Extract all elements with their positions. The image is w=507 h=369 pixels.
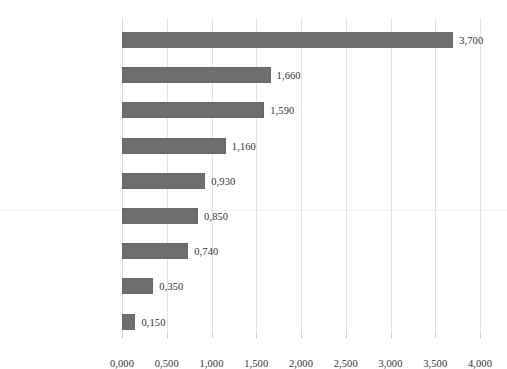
x-axis-tick-label: 3,500 (423, 358, 447, 369)
x-axis-tick (212, 334, 213, 338)
x-gridline (480, 18, 481, 334)
bar (122, 314, 135, 330)
x-axis-tick (167, 334, 168, 338)
bar-row: Cities1,660 (122, 67, 480, 83)
x-axis-tick-label: 0,000 (110, 358, 134, 369)
bar-value-label: 0,930 (211, 175, 235, 186)
x-axis-tick (256, 334, 257, 338)
bar-row: Human1,590 (122, 102, 480, 118)
plot-area: 0,0000,5001,0001,5002,0002,5003,0003,500… (122, 18, 480, 334)
bar-chart: 0,0000,5001,0001,5002,0002,5003,0003,500… (0, 0, 507, 369)
x-axis-tick (301, 334, 302, 338)
bar (122, 243, 188, 259)
bar (122, 32, 453, 48)
bar-value-label: 3,700 (459, 35, 483, 46)
x-axis-tick (122, 334, 123, 338)
bar (122, 138, 226, 154)
x-axis-tick (391, 334, 392, 338)
x-axis-tick-label: 3,000 (378, 358, 402, 369)
bar-row: Worksites0,930 (122, 173, 480, 189)
bar-row: Home0,350 (122, 278, 480, 294)
x-axis-tick-label: 2,500 (334, 358, 358, 369)
x-axis-tick-label: 4,000 (468, 358, 492, 369)
bar (122, 67, 271, 83)
bar-value-label: 1,660 (277, 70, 301, 81)
x-axis-tick (435, 334, 436, 338)
bar (122, 173, 205, 189)
bar-value-label: 1,590 (270, 105, 294, 116)
bar-row: Factories3,700 (122, 32, 480, 48)
bar-value-label: 0,850 (204, 211, 228, 222)
bar-value-label: 1,160 (232, 140, 256, 151)
bar (122, 278, 153, 294)
bar (122, 102, 264, 118)
x-axis-tick (346, 334, 347, 338)
bar-value-label: 0,350 (159, 281, 183, 292)
x-axis-tick-label: 0,500 (155, 358, 179, 369)
bar-row: Outside0,850 (122, 208, 480, 224)
x-axis-tick-label: 1,500 (244, 358, 268, 369)
bar-value-label: 0,150 (141, 316, 165, 327)
bar-value-label: 0,740 (194, 246, 218, 257)
x-axis-tick (480, 334, 481, 338)
bar (122, 208, 198, 224)
x-axis-tick-label: 1,000 (199, 358, 223, 369)
bar-row: Retail environments1,160 (122, 138, 480, 154)
x-axis-tick-label: 2,000 (289, 358, 313, 369)
bar-row: Vehicles0,740 (122, 243, 480, 259)
bar-row: Officies0,150 (122, 314, 480, 330)
